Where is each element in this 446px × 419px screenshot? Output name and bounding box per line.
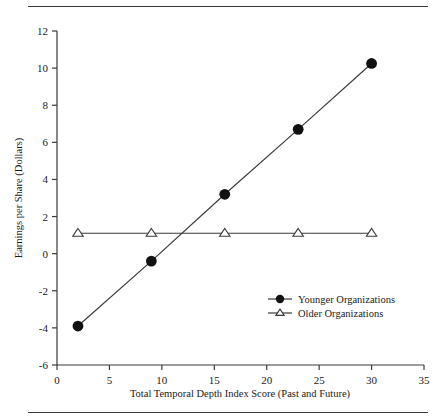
x-tick-label: 5 <box>107 374 113 386</box>
x-tick-label: 0 <box>54 374 60 386</box>
x-tick-label: 10 <box>156 374 168 386</box>
data-point-marker <box>73 321 84 332</box>
data-point-marker <box>293 124 304 135</box>
data-point-marker <box>220 228 230 236</box>
x-axis-title: Total Temporal Depth Index Score (Past a… <box>130 388 351 400</box>
data-point-marker <box>366 58 377 69</box>
y-axis-title: Earnings per Share (Dollars) <box>13 137 25 258</box>
data-point-marker <box>73 228 83 236</box>
legend-marker <box>276 309 284 315</box>
x-tick-label: 15 <box>209 374 221 386</box>
y-tick-label: 12 <box>37 25 48 37</box>
legend-label: Younger Organizations <box>298 294 395 305</box>
x-tick-label: 20 <box>261 374 273 386</box>
y-tick-label: 2 <box>43 211 49 223</box>
chart-svg: -6-4-2024681012 05101520253035 Total Tem… <box>0 0 446 419</box>
data-point-marker <box>219 189 230 200</box>
data-point-marker <box>146 228 156 236</box>
figure-container: -6-4-2024681012 05101520253035 Total Tem… <box>0 0 446 419</box>
data-point-marker <box>146 256 157 267</box>
y-tick-label: -4 <box>39 322 49 334</box>
series-layer <box>73 58 377 331</box>
x-axis-ticks: 05101520253035 <box>54 365 430 386</box>
y-tick-label: -2 <box>39 285 48 297</box>
y-tick-label: -6 <box>39 359 49 371</box>
y-tick-label: 4 <box>43 173 49 185</box>
legend-label: Older Organizations <box>298 308 383 319</box>
chart-legend: Younger OrganizationsOlder Organizations <box>268 294 395 319</box>
y-axis-ticks: -6-4-2024681012 <box>37 25 57 371</box>
y-tick-label: 0 <box>43 248 49 260</box>
y-tick-label: 10 <box>37 62 49 74</box>
y-tick-label: 8 <box>43 99 49 111</box>
x-tick-label: 25 <box>314 374 326 386</box>
y-tick-label: 6 <box>43 136 49 148</box>
legend-marker <box>276 295 284 303</box>
data-point-marker <box>366 228 376 236</box>
x-tick-label: 30 <box>366 374 378 386</box>
data-point-marker <box>293 228 303 236</box>
x-tick-label: 35 <box>419 374 431 386</box>
